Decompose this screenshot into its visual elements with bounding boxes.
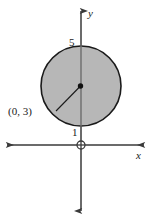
tick-label-1: 1 [72, 127, 78, 138]
center-point-dot [78, 83, 83, 88]
circle-diagram-figure: y x 5 1 (0, 3) [0, 0, 151, 221]
tick-label-5: 5 [69, 37, 75, 48]
x-axis-label: x [136, 150, 141, 161]
center-point-label: (0, 3) [8, 106, 32, 117]
y-axis-label: y [88, 8, 93, 19]
